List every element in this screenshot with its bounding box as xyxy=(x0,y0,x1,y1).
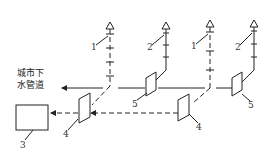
vent-pipe-1-left xyxy=(92,22,114,105)
vent-pipe-2-middle xyxy=(152,22,170,80)
label-box3: 3 xyxy=(20,140,26,150)
label-trap5-right: 5 xyxy=(248,100,254,110)
vent-pipe-1-right xyxy=(193,20,214,103)
trap-5-middle xyxy=(146,72,156,96)
city-sewer-label-line2: 水管道 xyxy=(17,79,44,91)
city-sewer-label-line1: 城市下 xyxy=(17,67,44,79)
city-sewer-label: 城市下 水管道 xyxy=(17,67,44,91)
box-3-septic-tank xyxy=(16,105,48,130)
label-vent2-middle: 2 xyxy=(147,42,153,52)
label-trap4-right: 4 xyxy=(196,122,202,132)
label-trap4-left: 4 xyxy=(63,129,69,139)
trap-4-left xyxy=(79,93,90,123)
label-vent2-right: 2 xyxy=(235,42,241,52)
label-vent1-left: 1 xyxy=(91,42,97,52)
trap-4-right xyxy=(178,94,189,121)
label-trap5-middle: 5 xyxy=(132,99,138,109)
vent-pipe-2-right xyxy=(240,20,258,82)
trap-5-right xyxy=(232,72,242,96)
label-vent1-right: 1 xyxy=(191,41,197,51)
